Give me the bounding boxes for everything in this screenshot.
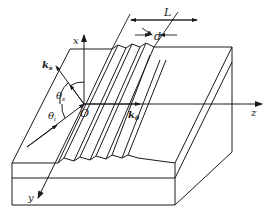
- front-top-edge-with-teeth: [12, 155, 175, 163]
- grating-line: [64, 45, 118, 158]
- d-arrow-left: [142, 28, 152, 35]
- ks-midarrow: [70, 85, 84, 104]
- theta-i-arc: [62, 104, 65, 118]
- right-face-outline: [175, 47, 232, 205]
- extension-line: [112, 14, 130, 49]
- grating-line: [128, 60, 166, 155]
- theta-s-arc-a: [70, 82, 84, 86]
- theta-s-label: θs: [56, 90, 65, 102]
- axes: [27, 35, 262, 198]
- grating-coupler-diagram: L d x z y O ks k0 θs θi: [0, 0, 270, 218]
- grating-back-teeth: [112, 43, 154, 49]
- grating-line: [112, 55, 150, 155]
- top-face-right-edge: [175, 47, 232, 163]
- front-face-outline: [12, 163, 175, 205]
- theta-i-label: θi: [48, 110, 56, 122]
- period-label: d: [154, 30, 161, 43]
- y-axis-label: y: [27, 192, 34, 203]
- x-axis-label: x: [73, 35, 79, 46]
- k0-label: k0: [128, 109, 140, 121]
- z-axis-label: z: [250, 107, 257, 118]
- y-axis: [38, 104, 84, 198]
- grating-length-label: L: [163, 6, 171, 19]
- incident-midarrow: [27, 125, 57, 147]
- ks-label: ks: [42, 59, 53, 71]
- origin-label: O: [80, 107, 89, 120]
